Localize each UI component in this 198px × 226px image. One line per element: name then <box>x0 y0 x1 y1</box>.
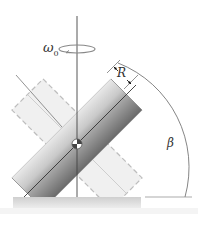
base-shadow <box>0 208 198 214</box>
radius-label: R <box>117 67 126 79</box>
omega-label: ω0 <box>43 41 59 58</box>
angle-label: β <box>167 137 174 149</box>
center-of-mass-icon <box>72 139 82 149</box>
diagram-canvas <box>0 0 198 226</box>
